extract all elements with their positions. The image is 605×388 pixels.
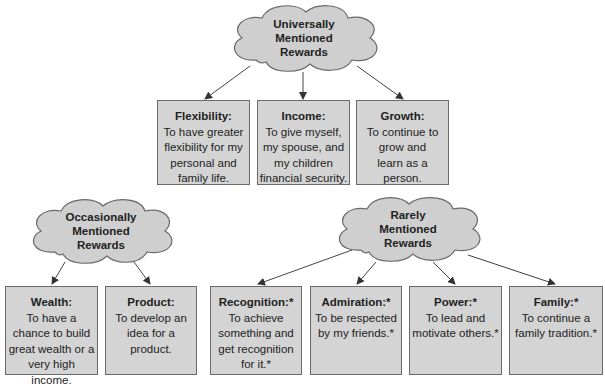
cloud-line: Mentioned	[379, 222, 437, 236]
reward-description: To have a chance to build great wealth o…	[6, 311, 97, 388]
cloud-line: Mentioned	[273, 31, 334, 45]
reward-title: Admiration:*	[311, 295, 401, 311]
reward-box-admiration: Admiration:* To be respected by my frien…	[310, 286, 402, 375]
reward-box-family: Family:* To continue a family tradition.…	[509, 286, 603, 375]
cloud-line: Rewards	[379, 236, 437, 250]
reward-description: To have greater flexibility for my perso…	[158, 125, 249, 187]
reward-title: Growth:	[357, 109, 448, 125]
reward-box-flexibility: Flexibility: To have greater flexibility…	[157, 100, 250, 185]
cloud-occasionally-mentioned: Occasionally Mentioned Rewards	[25, 196, 177, 266]
reward-description: To lead and motivate others.*	[410, 311, 501, 342]
reward-box-power: Power:* To lead and motivate others.*	[409, 286, 502, 375]
reward-title: Power:*	[410, 295, 501, 311]
reward-title: Recognition:*	[211, 295, 301, 311]
reward-description: To continue to grow and learn as a perso…	[357, 125, 448, 187]
reward-box-product: Product: To develop an idea for a produc…	[105, 286, 197, 375]
reward-description: To develop an idea for a product.	[106, 311, 196, 358]
arrow-to-admiration	[357, 262, 376, 284]
cloud-line: Rewards	[66, 238, 137, 252]
reward-box-wealth: Wealth: To have a chance to build great …	[5, 286, 98, 375]
cloud-line: Occasionally	[66, 210, 137, 224]
cloud-universally-mentioned: Universally Mentioned Rewards	[226, 2, 382, 74]
reward-description: To give myself, my spouse, and my childr…	[258, 125, 349, 187]
reward-box-growth: Growth: To continue to grow and learn as…	[356, 100, 449, 185]
reward-title: Income:	[258, 109, 349, 125]
reward-title: Wealth:	[6, 295, 97, 311]
cloud-line: Universally	[273, 17, 334, 31]
reward-description: To continue a family tradition.*	[510, 311, 602, 342]
reward-box-income: Income: To give myself, my spouse, and m…	[257, 100, 350, 185]
cloud-rarely-mentioned: Rarely Mentioned Rewards	[331, 194, 485, 264]
cloud-line: Rewards	[273, 45, 334, 59]
cloud-line: Rarely	[379, 208, 437, 222]
reward-title: Product:	[106, 295, 196, 311]
reward-description: To be respected by my friends.*	[311, 311, 401, 342]
reward-description: To achieve something and get recognition…	[211, 311, 301, 373]
cloud-line: Mentioned	[66, 224, 137, 238]
reward-title: Flexibility:	[158, 109, 249, 125]
arrow-to-power	[433, 262, 455, 284]
reward-box-recognition: Recognition:* To achieve something and g…	[210, 286, 302, 375]
reward-title: Family:*	[510, 295, 602, 311]
